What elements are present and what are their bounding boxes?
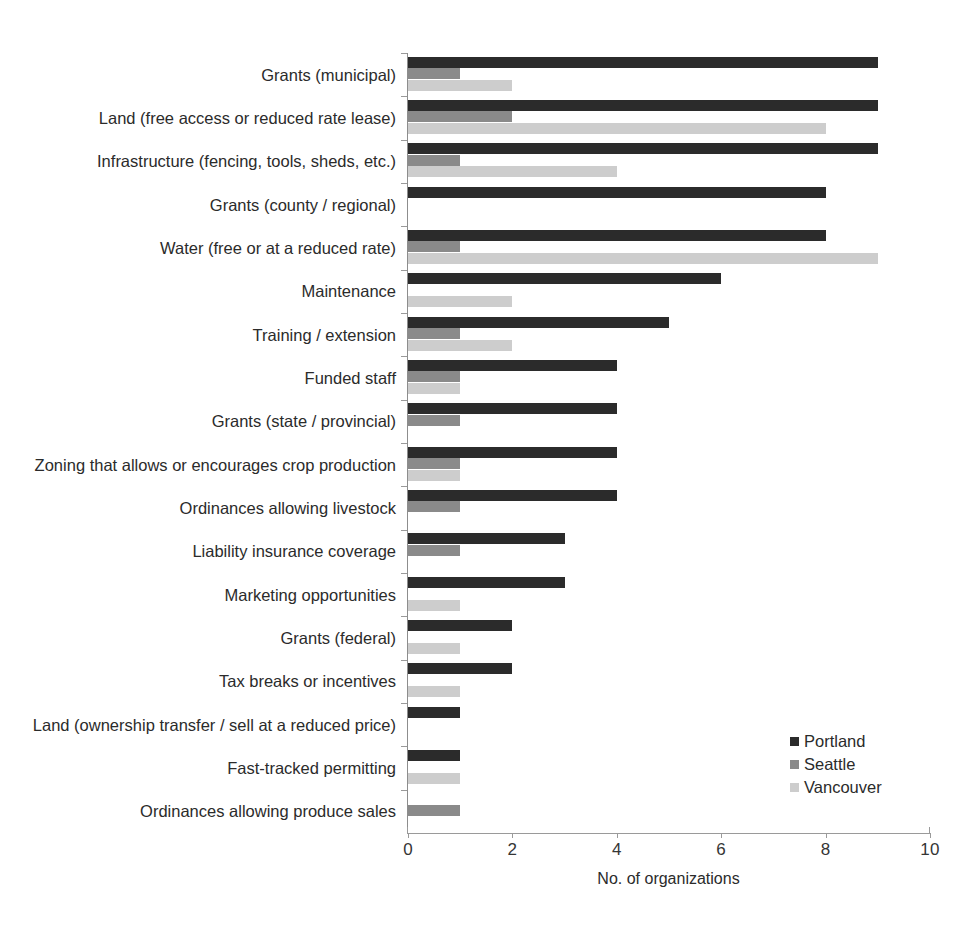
legend-item: Seattle [790,753,882,776]
bar-portland [408,403,617,414]
legend-swatch-icon [790,783,799,792]
bar-portland [408,317,669,328]
chart-legend: PortlandSeattleVancouver [790,730,882,799]
y-axis-category-label: Grants (municipal) [0,66,396,84]
y-axis-category-label: Ordinances allowing livestock [0,499,396,517]
bar-portland [408,447,617,458]
chart-category-row: Grants (state / provincial) [0,400,969,443]
x-axis-tick [617,833,618,838]
chart-category-row: Grants (federal) [0,616,969,659]
bar-portland [408,533,565,544]
y-axis-category-label: Maintenance [0,282,396,300]
legend-label: Portland [804,732,865,751]
bar-vancouver [408,80,512,91]
bar-seattle [408,805,460,816]
bar-seattle [408,155,460,166]
bar-seattle [408,241,460,252]
bar-portland [408,620,512,631]
x-axis-tick [826,833,827,838]
x-axis-tick [512,833,513,838]
bar-portland [408,143,878,154]
bar-portland [408,57,878,68]
x-axis-tick-label: 2 [492,840,532,860]
bar-portland [408,707,460,718]
y-axis-category-label: Infrastructure (fencing, tools, sheds, e… [0,152,396,170]
bar-seattle [408,545,460,556]
bar-seattle [408,68,460,79]
bar-seattle [408,501,460,512]
y-axis-category-label: Training / extension [0,326,396,344]
bar-vancouver [408,253,878,264]
horizontal-bar-chart: 0246810 Grants (municipal)Land (free acc… [0,0,969,928]
legend-item: Portland [790,730,882,753]
bar-vancouver [408,340,512,351]
bar-seattle [408,111,512,122]
y-axis-category-label: Grants (county / regional) [0,196,396,214]
chart-category-row: Funded staff [0,356,969,399]
chart-category-row: Land (free access or reduced rate lease) [0,96,969,139]
bar-seattle [408,458,460,469]
y-axis-category-label: Liability insurance coverage [0,542,396,560]
y-axis-category-label: Land (free access or reduced rate lease) [0,109,396,127]
bar-portland [408,360,617,371]
x-axis-tick-label: 8 [806,840,846,860]
bar-vancouver [408,123,826,134]
bar-portland [408,577,565,588]
x-axis-tick-label: 4 [597,840,637,860]
chart-category-row: Maintenance [0,270,969,313]
x-axis-tick [721,833,722,838]
legend-item: Vancouver [790,776,882,799]
bar-vancouver [408,643,460,654]
legend-swatch-icon [790,737,799,746]
y-axis-category-label: Grants (federal) [0,629,396,647]
legend-label: Vancouver [804,778,882,797]
chart-category-row: Ordinances allowing livestock [0,486,969,529]
bar-vancouver [408,383,460,394]
bar-portland [408,663,512,674]
bar-portland [408,750,460,761]
chart-category-row: Zoning that allows or encourages crop pr… [0,443,969,486]
y-axis-category-label: Funded staff [0,369,396,387]
y-axis-category-label: Land (ownership transfer / sell at a red… [0,716,396,734]
chart-category-row: Marketing opportunities [0,573,969,616]
chart-category-row: Liability insurance coverage [0,530,969,573]
y-axis-category-label: Zoning that allows or encourages crop pr… [0,456,396,474]
legend-label: Seattle [804,755,855,774]
bar-seattle [408,371,460,382]
bar-vancouver [408,296,512,307]
y-axis-category-label: Fast-tracked permitting [0,759,396,777]
bar-portland [408,490,617,501]
x-axis-label: No. of organizations [407,870,930,888]
bar-portland [408,187,826,198]
y-axis-category-label: Grants (state / provincial) [0,412,396,430]
bar-seattle [408,328,460,339]
bar-seattle [408,415,460,426]
bar-vancouver [408,470,460,481]
bar-vancouver [408,773,460,784]
x-axis-tick [408,833,409,838]
bar-portland [408,273,721,284]
x-axis-tick [930,833,931,838]
chart-category-row: Tax breaks or incentives [0,660,969,703]
x-axis-line [407,833,930,834]
bar-portland [408,230,826,241]
x-axis-tick-label: 10 [910,840,950,860]
y-axis-category-label: Tax breaks or incentives [0,672,396,690]
chart-category-row: Water (free or at a reduced rate) [0,226,969,269]
bar-vancouver [408,600,460,611]
x-axis-tick-label: 0 [388,840,428,860]
chart-category-row: Grants (municipal) [0,53,969,96]
x-axis-tick-label: 6 [701,840,741,860]
legend-swatch-icon [790,760,799,769]
y-axis-category-label: Marketing opportunities [0,586,396,604]
bar-portland [408,100,878,111]
bar-vancouver [408,686,460,697]
chart-category-row: Training / extension [0,313,969,356]
chart-category-row: Infrastructure (fencing, tools, sheds, e… [0,140,969,183]
bar-vancouver [408,166,617,177]
chart-category-row: Grants (county / regional) [0,183,969,226]
y-axis-category-label: Ordinances allowing produce sales [0,802,396,820]
y-axis-category-label: Water (free or at a reduced rate) [0,239,396,257]
